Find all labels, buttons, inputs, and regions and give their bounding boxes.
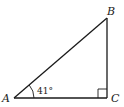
vertex-label-b: B	[106, 5, 115, 18]
vertex-label-c: C	[111, 92, 120, 105]
angle-arc-a	[29, 85, 34, 98]
triangle-diagram: A B C 41°	[0, 0, 124, 107]
angle-label-a: 41°	[37, 86, 53, 96]
side-ab	[14, 18, 107, 98]
right-angle-marker	[98, 89, 107, 98]
vertex-label-a: A	[1, 92, 10, 105]
